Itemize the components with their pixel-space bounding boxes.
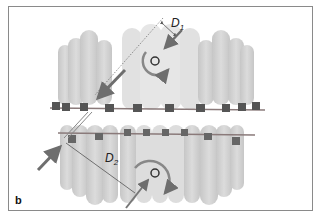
lower-force-arrow xyxy=(38,147,60,170)
lower-arch-teeth xyxy=(60,125,244,205)
d2-label: D2 xyxy=(105,151,118,167)
panel-label: b xyxy=(15,194,22,206)
d1-label: D1 xyxy=(171,16,184,32)
upper-arch-teeth xyxy=(58,24,254,110)
orthodontic-diagram xyxy=(0,0,317,220)
